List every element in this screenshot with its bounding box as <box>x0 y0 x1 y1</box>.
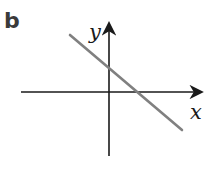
y-axis-label: y <box>88 20 102 44</box>
graph-line <box>70 35 182 130</box>
x-axis-label: x <box>190 100 202 124</box>
graph: y x <box>0 0 218 180</box>
